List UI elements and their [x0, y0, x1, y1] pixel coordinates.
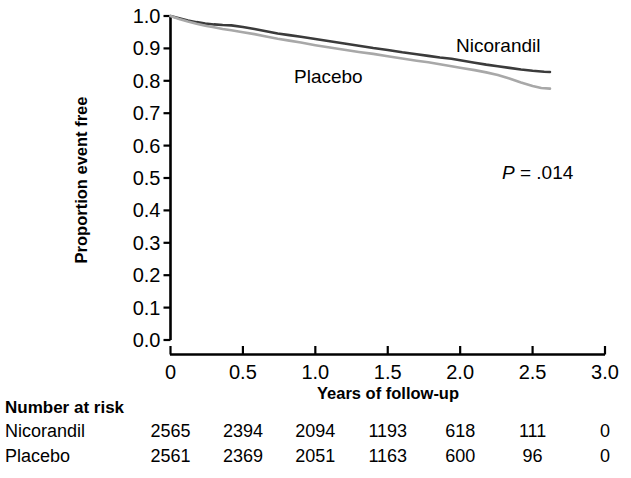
y-tick-label: 0.4 — [109, 200, 161, 220]
risk-row-label: Nicorandil — [5, 422, 85, 440]
y-tick-label: 0.3 — [109, 233, 161, 253]
risk-cell: 2565 — [136, 422, 206, 440]
risk-cell: 618 — [425, 422, 495, 440]
y-tick-label: 0.7 — [109, 103, 161, 123]
p-value-number: = .014 — [515, 162, 574, 183]
p-value-symbol: P — [502, 162, 515, 183]
y-tick-label: 1.0 — [109, 6, 161, 26]
risk-cell: 2369 — [208, 447, 278, 465]
y-tick-label: 0.1 — [109, 298, 161, 318]
x-tick-label: 3.0 — [575, 362, 631, 382]
kaplan-meier-figure: Proportion event free 0.00.10.20.30.40.5… — [0, 0, 631, 478]
risk-cell: 1163 — [353, 447, 423, 465]
y-axis-title: Proportion event free — [72, 10, 96, 350]
risk-table-title: Number at risk — [5, 398, 124, 418]
risk-cell: 2394 — [208, 422, 278, 440]
y-tick-label: 0.9 — [109, 38, 161, 58]
y-tick-label: 0.6 — [109, 136, 161, 156]
x-tick-label: 0 — [141, 362, 201, 382]
risk-cell: 111 — [498, 422, 568, 440]
risk-cell: 2561 — [136, 447, 206, 465]
x-tick-label: 1.5 — [358, 362, 418, 382]
y-tick-label: 0.5 — [109, 168, 161, 188]
y-tick-label: 0.8 — [109, 71, 161, 91]
series-label-placebo: Placebo — [294, 67, 363, 86]
p-value-annotation: P = .014 — [502, 163, 573, 182]
x-tick-label: 2.0 — [430, 362, 490, 382]
series-label-nicorandil: Nicorandil — [456, 36, 540, 55]
risk-cell: 2051 — [280, 447, 350, 465]
y-tick-label: 0.2 — [109, 265, 161, 285]
risk-cell: 600 — [425, 447, 495, 465]
risk-cell: 0 — [570, 422, 631, 440]
x-tick-label: 0.5 — [213, 362, 273, 382]
x-tick-label: 2.5 — [503, 362, 563, 382]
number-at-risk-table: Number at risk Nicorandil256523942094119… — [0, 398, 631, 478]
risk-cell: 0 — [570, 447, 631, 465]
x-tick-label: 1.0 — [285, 362, 345, 382]
risk-cell: 96 — [498, 447, 568, 465]
y-tick-label: 0.0 — [109, 330, 161, 350]
risk-cell: 1193 — [353, 422, 423, 440]
risk-cell: 2094 — [280, 422, 350, 440]
risk-row-label: Placebo — [5, 447, 70, 465]
